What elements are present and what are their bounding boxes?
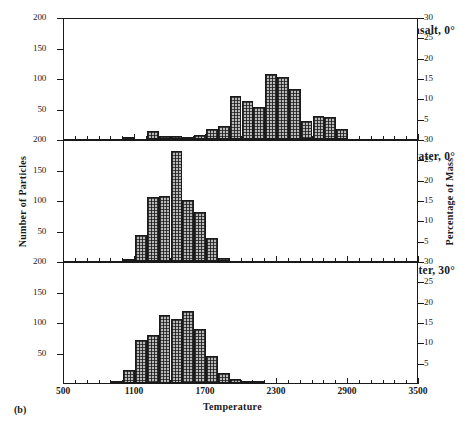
x-tick-minor xyxy=(312,136,313,140)
x-tick-major xyxy=(134,134,135,140)
y-tick-label-right: 10 xyxy=(424,93,454,103)
x-tick-minor xyxy=(87,136,88,140)
y-tick-label-left: 50 xyxy=(12,348,46,358)
x-tick-minor xyxy=(122,136,123,140)
x-tick-minor xyxy=(75,258,76,262)
y-tick-left xyxy=(57,79,63,80)
histogram-bar xyxy=(182,200,194,261)
histogram-bar xyxy=(230,96,242,139)
histogram-bar xyxy=(253,107,265,139)
plot-area-panel-0 xyxy=(64,19,417,139)
histogram-bar xyxy=(289,89,301,139)
x-tick-minor xyxy=(406,258,407,262)
y-tick-left xyxy=(57,110,63,111)
x-tick-minor xyxy=(158,136,159,140)
x-tick-minor xyxy=(394,136,395,140)
histogram-bar xyxy=(265,74,277,139)
y-tick-label-right: 30 xyxy=(424,12,454,22)
x-tick-minor xyxy=(252,258,253,262)
x-tick-minor xyxy=(252,136,253,140)
y-tick-label-right: 20 xyxy=(424,297,454,307)
x-tick-minor xyxy=(170,136,171,140)
x-tick-minor xyxy=(323,380,324,384)
x-tick-minor xyxy=(229,258,230,262)
y-tick-left xyxy=(57,354,63,355)
panel-basalt-0deg xyxy=(63,18,418,140)
x-tick-major xyxy=(205,378,206,384)
x-tick-major xyxy=(134,378,135,384)
y-tick-label-right: 25 xyxy=(424,276,454,286)
x-tick-minor xyxy=(181,258,182,262)
x-tick-major xyxy=(205,256,206,262)
y-tick-label-right: 25 xyxy=(424,32,454,42)
x-tick-major xyxy=(347,378,348,384)
x-tick-minor xyxy=(193,380,194,384)
x-tick-minor xyxy=(264,380,265,384)
histogram-bar xyxy=(182,311,194,383)
x-tick-minor xyxy=(300,136,301,140)
x-tick-major xyxy=(63,256,64,262)
x-tick-minor xyxy=(158,380,159,384)
y-tick-left xyxy=(57,262,63,263)
y-tick-label-left: 100 xyxy=(12,73,46,83)
plot-area-panel-1 xyxy=(64,141,417,261)
x-tick-minor xyxy=(110,258,111,262)
y-tick-label-right: 10 xyxy=(424,337,454,347)
panel-water-0deg xyxy=(63,140,418,262)
x-tick-minor xyxy=(312,258,313,262)
histogram-bar xyxy=(206,356,218,383)
x-tick-minor xyxy=(241,380,242,384)
x-tick-major xyxy=(134,256,135,262)
histogram-bar xyxy=(159,315,171,383)
histogram-bar xyxy=(147,197,159,261)
x-tick-minor xyxy=(288,258,289,262)
x-tick-minor xyxy=(323,258,324,262)
x-tick-major xyxy=(276,256,277,262)
y-tick-label-right: 5 xyxy=(424,114,454,124)
x-tick-minor xyxy=(371,136,372,140)
y-tick-label-right: 15 xyxy=(424,73,454,83)
x-tick-minor xyxy=(252,380,253,384)
x-tick-minor xyxy=(264,258,265,262)
x-tick-minor xyxy=(193,258,194,262)
panel-water-30deg xyxy=(63,262,418,384)
x-tick-minor xyxy=(288,136,289,140)
x-tick-minor xyxy=(170,258,171,262)
y-tick-left xyxy=(57,232,63,233)
x-tick-minor xyxy=(359,258,360,262)
x-tick-minor xyxy=(359,380,360,384)
histogram-bar xyxy=(159,196,171,261)
x-tick-minor xyxy=(371,258,372,262)
x-tick-minor xyxy=(229,136,230,140)
x-tick-label: 500 xyxy=(56,386,70,396)
x-tick-minor xyxy=(288,380,289,384)
x-tick-label: 2900 xyxy=(338,386,357,396)
y-axis-title-left: Number of Particles xyxy=(17,142,28,262)
x-tick-minor xyxy=(323,136,324,140)
x-axis-title: Temperature xyxy=(0,401,465,412)
y-tick-label-right: 15 xyxy=(424,317,454,327)
histogram-figure: Comet into basalt, 0° Comet into water, … xyxy=(0,0,465,428)
x-tick-label: 2300 xyxy=(267,386,286,396)
x-tick-label: 1100 xyxy=(125,386,143,396)
x-tick-major xyxy=(276,378,277,384)
x-tick-minor xyxy=(170,380,171,384)
histogram-bar xyxy=(171,151,183,261)
y-tick-left xyxy=(57,18,63,19)
x-tick-minor xyxy=(181,136,182,140)
y-tick-left xyxy=(57,140,63,141)
x-tick-minor xyxy=(87,380,88,384)
histogram-bar xyxy=(135,340,147,383)
x-tick-minor xyxy=(158,258,159,262)
x-tick-label: 1700 xyxy=(196,386,215,396)
plot-area-panel-2 xyxy=(64,263,417,383)
histogram-bar xyxy=(194,212,206,261)
x-tick-minor xyxy=(75,380,76,384)
x-tick-minor xyxy=(359,136,360,140)
x-tick-minor xyxy=(181,380,182,384)
x-tick-minor xyxy=(193,136,194,140)
x-tick-minor xyxy=(241,258,242,262)
x-tick-minor xyxy=(217,380,218,384)
x-tick-minor xyxy=(217,136,218,140)
histogram-bar xyxy=(277,77,289,139)
